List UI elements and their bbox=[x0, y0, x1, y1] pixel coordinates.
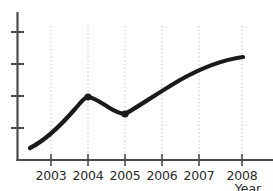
gridlines-vertical bbox=[51, 26, 242, 160]
x-tick-label-2005: 2005 bbox=[109, 168, 140, 183]
x-tick-label-2006: 2006 bbox=[146, 168, 177, 183]
x-tick-label-2007: 2007 bbox=[183, 168, 214, 183]
data-point-2004 bbox=[84, 93, 91, 100]
line-chart-figure: 2003 2004 2005 2006 2007 2008 Year bbox=[0, 0, 273, 191]
x-axis-title: Year bbox=[234, 181, 262, 191]
data-point-2005 bbox=[121, 110, 128, 117]
data-line-trend bbox=[30, 57, 243, 148]
x-tick-label-2004: 2004 bbox=[72, 168, 103, 183]
x-tick-label-2003: 2003 bbox=[35, 168, 66, 183]
x-axis-tick-labels: 2003 2004 2005 2006 2007 2008 bbox=[35, 168, 257, 183]
chart-canvas: 2003 2004 2005 2006 2007 2008 Year bbox=[0, 0, 273, 191]
